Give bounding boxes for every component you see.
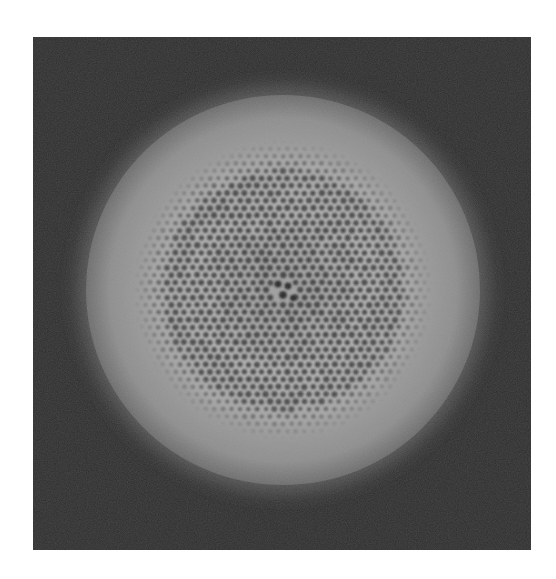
figure-canvas [0, 0, 556, 579]
noise-overlay [33, 37, 531, 550]
diatom-image [33, 37, 531, 550]
diatom-micrograph [33, 37, 531, 550]
